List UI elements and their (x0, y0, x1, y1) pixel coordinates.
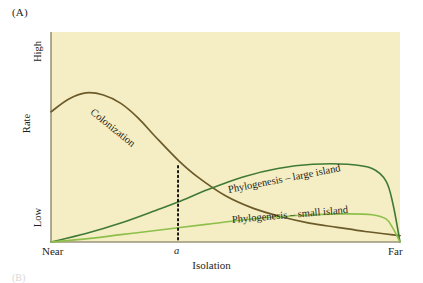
y-axis-tick-low: Low (32, 198, 43, 238)
y-axis-title: Rate (21, 94, 32, 154)
x-axis-tick-far: Far (388, 245, 403, 257)
next-panel-label: (B) (12, 272, 25, 283)
y-axis-tick-high: High (32, 32, 43, 72)
x-axis-title: Isolation (0, 259, 423, 271)
x-axis-tick-a: a (174, 245, 179, 256)
x-axis-tick-near: Near (42, 245, 63, 257)
